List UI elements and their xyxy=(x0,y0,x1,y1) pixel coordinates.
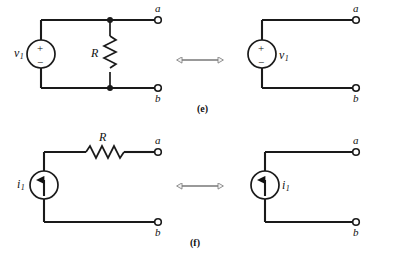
circuit-drawing xyxy=(0,0,402,262)
junction-dot-bottom-e xyxy=(107,85,113,91)
figure-canvas: v1 + − R a b v1 + − a b (e) i1 R a b i1 … xyxy=(0,0,402,262)
source-label-f-right: i1 xyxy=(282,178,290,193)
junction-dot-top-e xyxy=(107,17,113,23)
source-label-e-left: v1 xyxy=(14,46,24,61)
terminal-label-a-e-right: a xyxy=(353,2,359,14)
circuit-f-right xyxy=(251,149,359,226)
polarity-plus-e-left: + xyxy=(37,42,43,54)
panel-caption-e: (e) xyxy=(197,103,208,114)
terminal-label-b-f-left: b xyxy=(155,226,161,238)
panel-caption-f: (f) xyxy=(190,237,200,248)
terminal-b-e-left xyxy=(155,85,162,92)
resistor-zigzag-e xyxy=(104,36,116,68)
terminal-a-e-right xyxy=(353,17,360,24)
circuit-e-right xyxy=(248,17,359,92)
source-label-e-right: v1 xyxy=(279,48,289,63)
resistor-zigzag-f xyxy=(86,146,124,158)
terminal-a-f-right xyxy=(353,149,360,156)
resistor-label-f: R xyxy=(99,130,106,145)
terminal-a-f-left xyxy=(155,149,162,156)
source-label-f-left: i1 xyxy=(17,177,25,192)
circuit-f-left xyxy=(30,146,161,225)
terminal-b-e-right xyxy=(353,85,360,92)
polarity-minus-e-left: − xyxy=(37,56,43,68)
polarity-plus-e-right: + xyxy=(258,42,264,54)
terminal-b-f-left xyxy=(155,219,162,226)
terminal-label-a-f-left: a xyxy=(155,134,161,146)
terminal-a-e-left xyxy=(155,17,162,24)
terminal-label-b-f-right: b xyxy=(353,226,359,238)
terminal-label-a-f-right: a xyxy=(353,134,359,146)
resistor-label-e: R xyxy=(91,46,98,61)
terminal-label-a-e-left: a xyxy=(155,2,161,14)
terminal-label-b-e-left: b xyxy=(155,92,161,104)
terminal-b-f-right xyxy=(353,219,360,226)
polarity-minus-e-right: − xyxy=(258,56,264,68)
terminal-label-b-e-right: b xyxy=(353,92,359,104)
